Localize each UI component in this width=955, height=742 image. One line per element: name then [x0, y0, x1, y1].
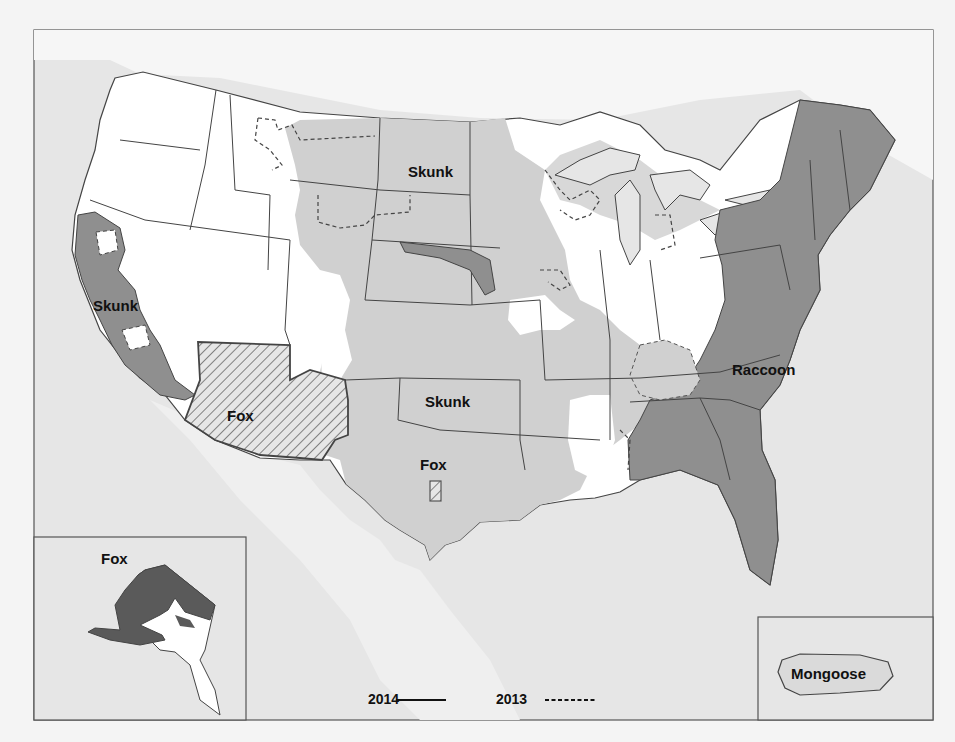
region-label-fox-texas: Fox: [420, 456, 447, 473]
rabies-map: [0, 0, 955, 742]
legend-label-2014: 2014: [368, 691, 399, 707]
legend-label-2013: 2013: [496, 691, 527, 707]
inset-label-puerto-rico-mongoose: Mongoose: [791, 665, 866, 682]
region-label-skunk-california: Skunk: [93, 297, 138, 314]
region-label-raccoon-east: Raccoon: [732, 361, 795, 378]
inset-label-alaska-fox: Fox: [101, 550, 128, 567]
region-label-skunk-north-central: Skunk: [408, 163, 453, 180]
region-label-skunk-south-central: Skunk: [425, 393, 470, 410]
alaska-inset: [34, 537, 246, 720]
region-label-fox-arizona: Fox: [227, 407, 254, 424]
fox-region-texas: [430, 481, 441, 501]
